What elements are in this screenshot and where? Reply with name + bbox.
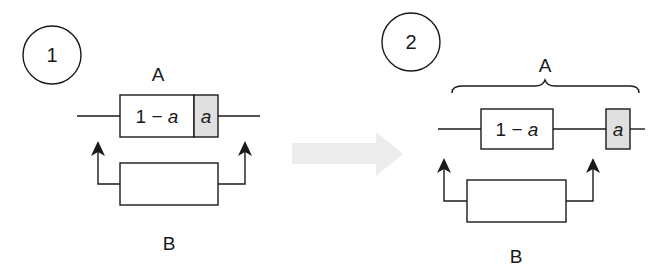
box-a-1: 1 − a a (120, 95, 218, 137)
box-a-shaded-2-text: a (613, 119, 624, 140)
box-a-shaded-1-text: a (201, 106, 212, 127)
step-1-badge: 1 (23, 26, 81, 84)
step-2-number: 2 (405, 31, 416, 53)
label-a-2: A (539, 55, 552, 76)
box-a-main-1-text: 1 − a (136, 106, 179, 127)
diagram-2: 2 A 1 − a a B (382, 13, 645, 267)
box-b-1 (120, 163, 218, 205)
label-b-1: B (163, 233, 176, 254)
label-a-1: A (152, 64, 165, 85)
label-b-2: B (510, 246, 523, 267)
box-b-2 (467, 180, 566, 222)
box-a-main-2-text: 1 − a (496, 119, 539, 140)
curly-brace-icon (452, 80, 639, 93)
step-1-number: 1 (46, 44, 57, 66)
right-arrow-icon (292, 132, 403, 176)
diagram-canvas: 1 A 1 − a a B 2 A (0, 0, 666, 276)
diagram-1: 1 A 1 − a a B (23, 26, 260, 254)
step-2-badge: 2 (382, 13, 440, 71)
